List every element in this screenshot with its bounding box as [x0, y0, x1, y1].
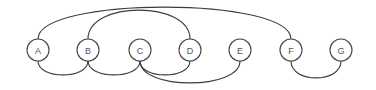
node-label-c: C — [137, 46, 144, 56]
graph-node-a[interactable]: A — [27, 39, 49, 61]
node-label-a: A — [35, 46, 41, 56]
arc-diagram-canvas: ABCDEFG — [0, 0, 376, 90]
graph-node-f[interactable]: F — [280, 39, 302, 61]
node-layer: ABCDEFG — [27, 39, 352, 61]
node-label-b: B — [85, 46, 91, 56]
node-label-d: D — [187, 46, 194, 56]
node-label-e: E — [237, 46, 243, 56]
graph-node-c[interactable]: C — [129, 39, 151, 61]
arc-edge-a-f — [38, 7, 291, 39]
arc-edge-b-d — [88, 10, 190, 39]
graph-node-e[interactable]: E — [229, 39, 251, 61]
arc-edge-f-g — [291, 61, 341, 78]
node-label-g: G — [337, 46, 344, 56]
node-label-f: F — [288, 46, 294, 56]
graph-node-d[interactable]: D — [179, 39, 201, 61]
graph-node-g[interactable]: G — [330, 39, 352, 61]
arc-edge-b-c — [88, 61, 140, 75]
arc-diagram-figure: ABCDEFG — [0, 0, 376, 90]
arc-edge-a-b — [38, 61, 88, 75]
graph-node-b[interactable]: B — [77, 39, 99, 61]
